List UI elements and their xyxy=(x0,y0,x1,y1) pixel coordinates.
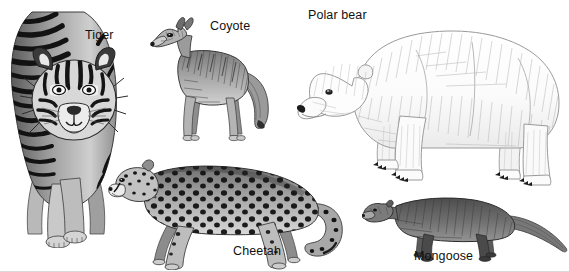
label-coyote: Coyote xyxy=(210,20,250,33)
label-cheetah: Cheetah xyxy=(233,245,281,258)
label-polar-bear: Polar bear xyxy=(308,9,367,22)
label-tiger: Tiger xyxy=(85,29,114,42)
cheetah-illustration xyxy=(108,150,346,270)
label-mongoose: Mongoose xyxy=(414,250,473,263)
species-illustration-plate: Tiger Coyote Polar bear Cheetah Mongoose xyxy=(0,0,569,272)
